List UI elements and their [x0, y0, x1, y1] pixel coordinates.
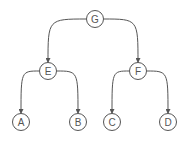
node-label: G — [91, 14, 99, 25]
tree-svg: GEFABCD — [0, 0, 186, 142]
node-label: A — [18, 117, 25, 128]
node-label: C — [108, 117, 115, 128]
node-a: A — [13, 114, 30, 131]
node-f: F — [130, 63, 147, 80]
edge-F-D — [147, 71, 169, 114]
edge-E-B — [57, 71, 79, 114]
tree-diagram: GEFABCD — [0, 0, 186, 142]
edge-F-C — [112, 71, 130, 114]
node-label: D — [164, 117, 171, 128]
node-d: D — [160, 114, 177, 131]
edge-E-A — [21, 71, 40, 114]
node-e: E — [40, 63, 57, 80]
node-label: E — [45, 66, 52, 77]
edge-G-E — [48, 19, 87, 63]
edge-G-F — [104, 19, 139, 63]
nodes-group: GEFABCD — [13, 11, 177, 131]
node-g: G — [87, 11, 104, 28]
node-c: C — [104, 114, 121, 131]
node-b: B — [70, 114, 87, 131]
node-label: F — [135, 66, 141, 77]
node-label: B — [75, 117, 82, 128]
